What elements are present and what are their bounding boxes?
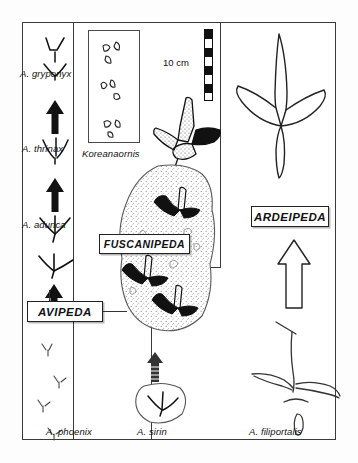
genus-box-ardeipeda[interactable]: ARDEIPEDA [251,206,329,227]
arrow-outline-ardeipeda [276,238,312,310]
arrow-hatched-bottom [147,352,163,382]
koreanaornis-tracks [88,30,140,143]
species-label-phoenix: A. phoenix [46,426,92,437]
genus-box-avipeda[interactable]: AVIPEDA [27,301,103,322]
species-label-sirin: A. sirin [137,426,167,437]
track-ardeipeda-large [232,30,332,180]
species-label-adunca: A. adunca [22,219,66,230]
scale-label: 10 cm [163,57,189,68]
inset-label-koreanaornis: Koreanaornis [82,148,140,159]
genus-box-fuscanipeda[interactable]: FUSCANIPEDA [99,234,190,254]
avipeda-track-column [26,28,90,438]
arrow-solid-2 [46,178,64,212]
rock-slab-sirin [130,380,192,432]
species-label-thrinax: A. thrinax [22,143,63,154]
figure-plate: A. gryponyx A. thrinax A. adunca A. phoe… [0,0,358,463]
scale-bar [204,29,213,101]
track-adunca-lower [39,254,73,278]
arrow-solid-1 [46,100,64,134]
connector-avipeda-right [103,311,127,312]
species-label-gryponyx: A. gryponyx [20,68,71,79]
track-filiportalis [240,318,350,438]
species-label-filiportalis: A. filiportalis [249,426,302,437]
rock-slab-fuscanipeda [110,160,240,355]
